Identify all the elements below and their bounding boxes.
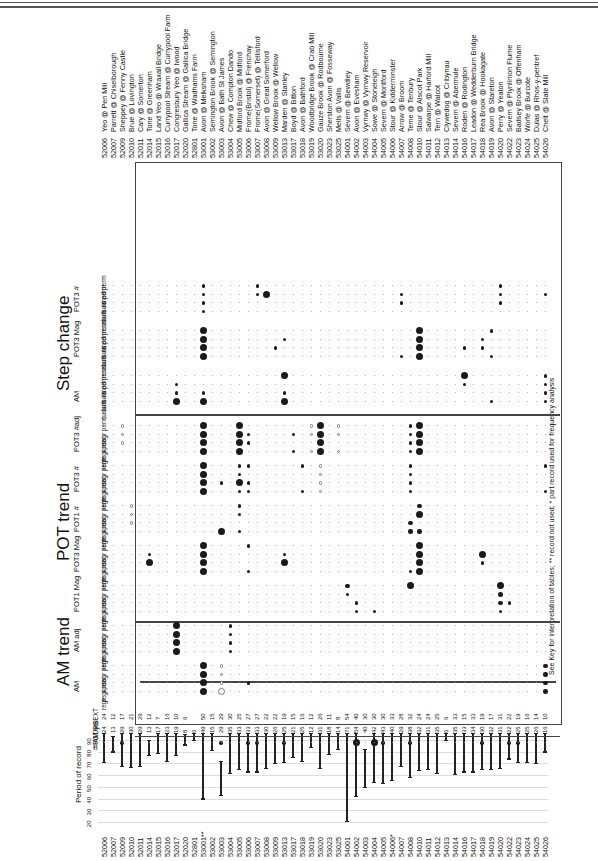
period-cap	[489, 733, 493, 734]
station-code-bottom: 54004	[371, 837, 378, 857]
significance-marker	[218, 528, 225, 535]
null-marker	[113, 651, 114, 652]
null-marker	[122, 691, 123, 692]
pot-years: 7	[155, 717, 161, 720]
station-code: 52020	[182, 132, 189, 158]
station-label: 52009Sheppey @ Fenny Castle	[119, 50, 126, 158]
pot-years: 12	[110, 713, 116, 720]
station-name: Frome(Somerset) @ Tellisford	[253, 36, 262, 132]
significance-marker	[416, 568, 423, 575]
null-marker	[122, 531, 123, 532]
significance-marker	[416, 353, 423, 360]
station-code-bottom: 54019	[488, 837, 495, 857]
period-cap	[129, 767, 133, 768]
pot-years: 14	[533, 713, 539, 720]
station-code-bottom: 52020	[182, 837, 189, 857]
station-name: Tone @ Wadhams Farm	[190, 54, 199, 132]
station-code-bottom: 52011	[137, 838, 144, 857]
null-marker	[131, 330, 132, 331]
station-code: 54002	[353, 132, 360, 158]
null-marker	[131, 347, 132, 348]
null-marker	[131, 482, 132, 483]
period-bar	[481, 734, 483, 770]
urbext-null	[266, 742, 267, 743]
period-axis-title: Period of record	[74, 746, 83, 803]
significance-marker	[218, 688, 225, 695]
station-code-bottom: 54011	[425, 838, 432, 857]
pot-years: 33	[470, 713, 476, 720]
period-cap	[165, 733, 169, 734]
period-cap	[417, 770, 421, 771]
period-bar	[220, 762, 222, 796]
significance-marker	[317, 431, 324, 438]
station-code: 53006	[245, 132, 252, 158]
null-marker	[113, 474, 114, 475]
period-bar	[148, 741, 150, 756]
station-code-bottom: 54017	[470, 837, 477, 857]
station-name: Salwarpe @ Harford Mill	[424, 54, 433, 132]
station-code: 54005	[380, 132, 387, 158]
null-marker	[122, 392, 123, 393]
null-marker	[131, 465, 132, 466]
pot-years: 29	[137, 713, 143, 720]
station-code: 54022	[506, 132, 513, 158]
null-marker	[122, 594, 123, 595]
null-marker	[113, 634, 114, 635]
null-marker	[122, 585, 123, 586]
pot-years: 19	[479, 713, 485, 720]
pot-years: 22	[263, 713, 269, 720]
station-label: 54007Arrow @ Broom	[398, 81, 405, 158]
null-marker	[131, 285, 132, 286]
period-cap	[462, 771, 466, 772]
station-label: 53019Woodbridge Brook @ Crab Mill	[308, 33, 315, 158]
null-marker	[113, 611, 114, 612]
urbext-null	[104, 742, 105, 743]
station-code: 54010	[416, 132, 423, 158]
am-count: 40	[362, 726, 368, 733]
null-marker	[113, 465, 114, 466]
null-marker	[122, 375, 123, 376]
station-code-bottom: 53009	[272, 837, 279, 857]
station-label: 54018Rea Brook @ Hookagate	[479, 52, 486, 158]
pot-years: 24	[101, 713, 107, 720]
period-cap	[102, 762, 106, 763]
null-marker	[122, 401, 123, 402]
period-cap	[201, 798, 205, 799]
station-code-bottom: 54022	[506, 837, 513, 857]
station-code-bottom: 54016	[461, 837, 468, 857]
period-bar	[472, 734, 474, 773]
station-label: 53018Avon @ Bathford	[299, 77, 306, 158]
significance-marker	[408, 521, 413, 526]
null-marker	[113, 571, 114, 572]
station-code-bottom: 54007	[398, 837, 405, 857]
station-code: 53003	[218, 132, 225, 158]
pot-years: 6	[182, 717, 188, 720]
station-name: Avon @ Melksham	[199, 72, 208, 132]
station-code: 52014	[146, 132, 153, 158]
station-label: 54012Tern @ Walcot	[434, 85, 441, 158]
null-marker	[113, 384, 114, 385]
station-name: Arrow @ Broom	[397, 81, 406, 132]
station-code-bottom: 53003	[218, 837, 225, 857]
significance-marker	[263, 291, 270, 298]
period-bar	[121, 734, 123, 767]
period-bar	[391, 734, 393, 781]
significance-marker	[130, 513, 134, 517]
null-marker	[131, 554, 132, 555]
pot-years: 30	[371, 713, 377, 720]
period-cap	[183, 744, 187, 745]
pot-years: 32	[407, 713, 413, 720]
station-name: Avon @ Stareton	[487, 77, 496, 132]
urbext-null	[293, 742, 294, 743]
null-marker	[131, 451, 132, 452]
station-label: 53002Semington Brook @ Semington	[209, 31, 216, 158]
station-code-bottom: 53023	[326, 837, 333, 857]
station-code: 53020	[317, 132, 324, 158]
period-bar	[463, 734, 465, 773]
period-cap	[255, 733, 259, 734]
period-cap	[147, 740, 151, 741]
period-cap	[111, 736, 115, 737]
pot-years: 28	[398, 713, 404, 720]
significance-marker	[200, 398, 207, 405]
station-code-bottom: 54026	[542, 837, 549, 857]
